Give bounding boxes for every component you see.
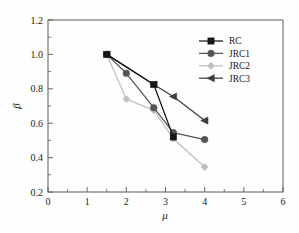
data-point-marker: [208, 50, 215, 57]
data-point-marker: [104, 51, 110, 57]
y-axis-tick-labels: 0.20.40.60.81.01.2: [31, 15, 44, 198]
data-point-marker: [151, 81, 157, 87]
x-axis-label: μ: [161, 209, 168, 221]
x-tick-label: 3: [163, 196, 168, 207]
chart-legend: RCJRC1JRC2JRC3: [199, 36, 250, 83]
y-tick-label: 0.6: [31, 118, 44, 129]
data-point-marker: [201, 136, 208, 143]
legend-item-jrc3[interactable]: JRC3: [199, 74, 250, 84]
x-tick-label: 6: [281, 196, 286, 207]
legend-item-jrc2[interactable]: JRC2: [199, 61, 250, 71]
legend-item-rc[interactable]: RC: [199, 36, 242, 46]
y-tick-label: 0.8: [31, 83, 44, 94]
y-tick-label: 0.2: [31, 187, 44, 198]
data-point-marker: [207, 62, 214, 69]
data-point-marker: [123, 70, 130, 77]
data-point-marker: [207, 75, 214, 82]
legend-label: JRC2: [229, 61, 250, 71]
x-tick-label: 1: [85, 196, 90, 207]
line-chart: 0123456 0.20.40.60.81.01.2 μ β RCJRC1JRC…: [0, 0, 299, 233]
series-layer: [103, 51, 208, 171]
x-tick-label: 0: [46, 196, 51, 207]
series-line: [107, 54, 205, 139]
x-tick-label: 4: [202, 196, 207, 207]
legend-label: RC: [229, 36, 242, 46]
y-axis-ticks: [48, 20, 53, 192]
x-axis-ticks: [48, 187, 283, 192]
data-point-marker: [170, 134, 176, 140]
legend-item-jrc1[interactable]: JRC1: [199, 49, 250, 59]
data-point-marker: [150, 104, 157, 111]
x-axis-tick-labels: 0123456: [46, 196, 286, 207]
y-axis-label: β: [10, 103, 22, 110]
plot-frame: [48, 20, 283, 192]
data-point-marker: [123, 96, 130, 103]
x-tick-label: 2: [124, 196, 129, 207]
y-tick-label: 1.2: [31, 15, 44, 26]
x-tick-label: 5: [241, 196, 246, 207]
chart-figure: 0123456 0.20.40.60.81.01.2 μ β RCJRC1JRC…: [0, 0, 299, 233]
data-point-marker: [208, 38, 214, 44]
y-tick-label: 1.0: [31, 49, 44, 60]
legend-label: JRC3: [229, 74, 250, 84]
y-tick-label: 0.4: [31, 152, 44, 163]
series-jrc1: [103, 51, 208, 143]
legend-label: JRC1: [229, 49, 250, 59]
